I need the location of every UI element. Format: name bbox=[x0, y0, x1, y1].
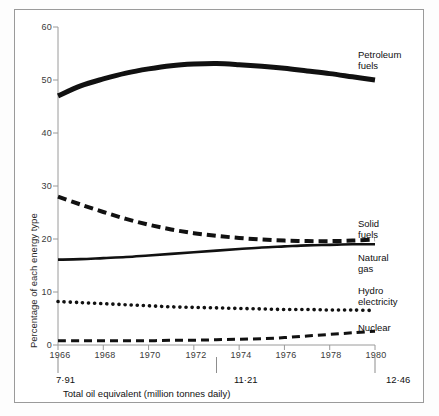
y-tick-50: 50 bbox=[30, 75, 52, 85]
x-tick-1970: 1970 bbox=[130, 350, 170, 360]
series-line-hydro-electricity bbox=[58, 302, 375, 311]
oil-tick-1980: 12·46 bbox=[386, 374, 410, 385]
x-tick-1976: 1976 bbox=[266, 350, 306, 360]
series-label-gas-line1: Natural bbox=[358, 252, 389, 263]
oil-tick-1966: 7·91 bbox=[56, 374, 75, 385]
chart-figure: 60 50 40 30 20 10 0 1966 1968 1970 1972 … bbox=[0, 0, 439, 416]
series-label-nuclear: Nuclear bbox=[358, 322, 391, 333]
series-label-solid-line2: fuels bbox=[358, 229, 378, 240]
x-tick-1974: 1974 bbox=[221, 350, 261, 360]
x-tick-1972: 1972 bbox=[176, 350, 216, 360]
oil-axis-caption: Total oil equivalent (million tonnes dai… bbox=[63, 388, 230, 399]
series-label-solid-line1: Solid bbox=[358, 218, 379, 229]
x-tick-1978: 1978 bbox=[311, 350, 351, 360]
series-label-hydro-line1: Hydro bbox=[358, 285, 383, 296]
y-axis-title-wrap: Percentage of each energy type bbox=[16, 150, 30, 350]
series-line-solid-fuels bbox=[58, 197, 375, 242]
series-paths bbox=[58, 64, 375, 341]
y-axis-title: Percentage of each energy type bbox=[28, 213, 39, 348]
y-axis-ticks bbox=[53, 27, 58, 345]
x-tick-1980: 1980 bbox=[356, 350, 396, 360]
oil-tick-1973: 11·21 bbox=[234, 374, 258, 385]
series-label-petroleum-line2: fuels bbox=[358, 60, 378, 71]
y-tick-40: 40 bbox=[30, 128, 52, 138]
series-label-petroleum-line1: Petroleum bbox=[358, 49, 401, 60]
series-label-hydro-line2: electricity bbox=[358, 296, 398, 307]
series-line-natural-gas bbox=[58, 244, 375, 259]
series-label-gas-line2: gas bbox=[358, 263, 373, 274]
x-tick-1966: 1966 bbox=[40, 350, 80, 360]
series-line-petroleum-fuels bbox=[58, 64, 375, 96]
series-line-nuclear bbox=[58, 331, 375, 341]
y-tick-30: 30 bbox=[30, 181, 52, 191]
x-tick-1968: 1968 bbox=[85, 350, 125, 360]
y-tick-60: 60 bbox=[30, 22, 52, 32]
